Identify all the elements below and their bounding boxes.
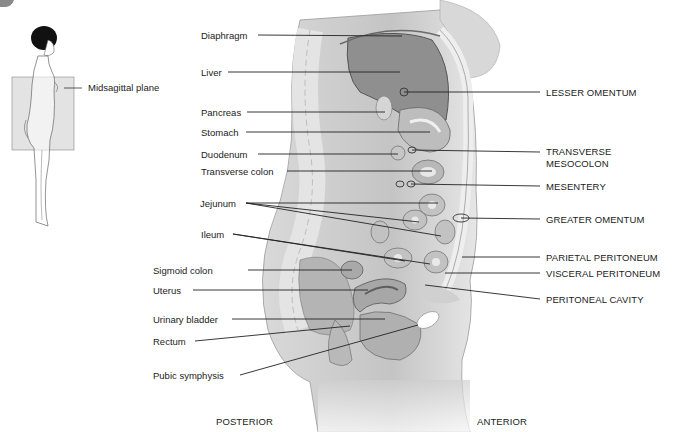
label-peritoneal-cavity: PERITONEAL CAVITY xyxy=(546,294,644,305)
label-uterus: Uterus xyxy=(153,285,181,296)
label-ileum: Ileum xyxy=(201,229,224,240)
label-stomach: Stomach xyxy=(201,127,239,138)
label-transverse-mesocolon-line2: MESOCOLON xyxy=(546,158,609,169)
label-lesser-omentum: LESSER OMENTUM xyxy=(546,87,637,98)
label-anterior: ANTERIOR xyxy=(477,416,527,427)
corner-mark-icon xyxy=(0,0,14,7)
label-pancreas: Pancreas xyxy=(201,107,241,118)
label-jejunum: Jejunum xyxy=(200,198,236,209)
label-midsagittal-plane: Midsagittal plane xyxy=(88,82,159,93)
label-diaphragm: Diaphragm xyxy=(201,30,247,41)
label-transverse-mesocolon-line1: TRANSVERSE xyxy=(546,146,611,157)
label-pubic-symphysis: Pubic symphysis xyxy=(153,370,224,381)
label-transverse-colon: Transverse colon xyxy=(201,166,274,177)
label-parietal-peritoneum: PARIETAL PERITONEUM xyxy=(546,252,658,263)
label-rectum: Rectum xyxy=(153,336,186,347)
label-liver: Liver xyxy=(201,67,222,78)
label-duodenum: Duodenum xyxy=(201,149,247,160)
label-sigmoid-colon: Sigmoid colon xyxy=(153,265,213,276)
label-posterior: POSTERIOR xyxy=(216,416,273,427)
sagittal-section xyxy=(262,0,500,432)
label-greater-omentum: GREATER OMENTUM xyxy=(546,214,644,225)
label-mesentery: MESENTERY xyxy=(546,181,606,192)
label-urinary-bladder: Urinary bladder xyxy=(153,314,218,325)
label-visceral-peritoneum: VISCERAL PERITONEUM xyxy=(546,268,660,279)
inset-figure xyxy=(12,26,82,226)
